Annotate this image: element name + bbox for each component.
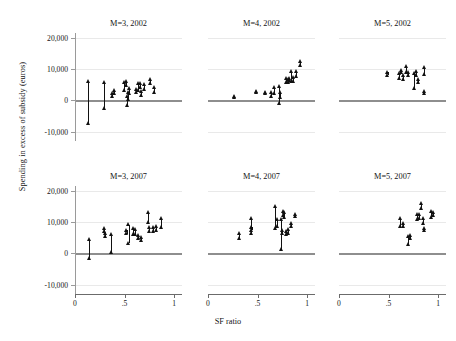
panel-m-5-2002: M=5, 2002: [339, 33, 446, 141]
data-marker-low: [279, 247, 283, 251]
data-marker-low: [401, 224, 405, 228]
y-axis-tick-label: -10,000: [45, 127, 68, 136]
data-marker-low: [298, 63, 302, 67]
data-marker-low: [146, 220, 150, 224]
data-marker-high: [102, 80, 106, 84]
data-marker-high: [87, 237, 91, 241]
data-marker-low: [421, 221, 425, 225]
plot-area: [208, 33, 315, 141]
data-marker-low: [385, 73, 389, 77]
x-axis-tick: [258, 295, 259, 298]
x-axis-tick: [389, 295, 390, 298]
x-axis-tick-label: .5: [386, 299, 392, 308]
data-marker-low: [419, 206, 423, 210]
data-marker-low: [422, 228, 426, 232]
data-marker-high: [109, 232, 113, 236]
plot-area: [339, 186, 446, 294]
x-axis-tick: [339, 295, 340, 298]
data-marker-high: [422, 65, 426, 69]
data-marker-low: [110, 94, 114, 98]
panel-m-5-2007: M=5, 20070.51: [339, 186, 446, 294]
data-marker-high: [159, 216, 163, 220]
x-axis-tick-label: 0: [206, 299, 210, 308]
data-marker-high: [142, 82, 146, 86]
data-range-line: [104, 82, 105, 108]
data-marker-low: [254, 90, 258, 94]
data-marker-high: [419, 201, 423, 205]
data-marker-low: [408, 236, 412, 240]
data-marker-low: [237, 236, 241, 240]
data-marker-high: [273, 204, 277, 208]
data-marker-high: [294, 69, 298, 73]
data-marker-low: [291, 79, 295, 83]
data-marker-high: [277, 84, 281, 88]
data-range-line: [88, 82, 89, 124]
x-axis-tick-label: 1: [436, 299, 440, 308]
data-marker-low: [126, 241, 130, 245]
data-marker-low: [412, 86, 416, 90]
panel-m-4-2002: M=4, 2002: [208, 33, 315, 141]
data-marker-high: [86, 79, 90, 83]
plot-area: [339, 33, 446, 141]
panel-m-3-2002: M=3, 200220,00010,0000-10,000: [75, 33, 182, 141]
plot-area: [75, 33, 182, 141]
data-marker-low: [263, 91, 267, 95]
x-axis-tick: [174, 295, 175, 298]
data-marker-low: [152, 90, 156, 94]
data-marker-low: [275, 224, 279, 228]
data-marker-low: [406, 242, 410, 246]
y-axis-tick-label: 10,000: [47, 65, 68, 74]
x-axis-tick-label: .5: [122, 299, 128, 308]
data-marker-low: [249, 228, 253, 232]
x-axis-tick-label: 0: [337, 299, 341, 308]
data-marker-low: [232, 95, 236, 99]
data-marker-low: [406, 73, 410, 77]
x-axis-tick-label: 1: [172, 299, 176, 308]
data-marker-low: [422, 72, 426, 76]
x-axis-line: [208, 294, 315, 295]
data-marker-low: [401, 77, 405, 81]
data-marker-low: [103, 234, 107, 238]
x-axis-tick: [125, 295, 126, 298]
data-marker-low: [286, 231, 290, 235]
data-marker-high: [237, 231, 241, 235]
panel-m-3-2007: M=3, 200720,00010,0000-10,0000.51: [75, 186, 182, 294]
data-marker-low: [278, 95, 282, 99]
x-axis-tick: [438, 295, 439, 298]
figure: Spending in excess of subsidy (euros) SF…: [0, 0, 456, 341]
x-axis-tick-label: 0: [73, 299, 77, 308]
panel-title: M=4, 2002: [208, 19, 315, 28]
data-marker-high: [127, 86, 131, 90]
data-marker-high: [249, 216, 253, 220]
panel-m-4-2007: M=4, 20070.51: [208, 186, 315, 294]
data-marker-high: [278, 90, 282, 94]
data-marker-low: [154, 228, 158, 232]
y-axis-tick-label: 20,000: [47, 186, 68, 195]
x-axis-tick: [307, 295, 308, 298]
x-axis-tick: [75, 295, 76, 298]
data-marker-low: [126, 97, 130, 101]
data-marker-low: [282, 215, 286, 219]
data-marker-low: [112, 91, 116, 95]
data-marker-low: [125, 103, 129, 107]
data-marker-high: [152, 85, 156, 89]
data-marker-high: [282, 210, 286, 214]
data-marker-low: [147, 229, 151, 233]
data-marker-high: [298, 59, 302, 63]
y-axis-tick-label: 20,000: [47, 33, 68, 42]
data-marker-low: [139, 93, 143, 97]
data-marker-low: [127, 91, 131, 95]
x-axis-line: [339, 294, 446, 295]
data-marker-high: [146, 210, 150, 214]
data-marker-low: [272, 91, 276, 95]
data-marker-high: [126, 222, 130, 226]
data-marker-high: [398, 216, 402, 220]
data-marker-low: [86, 121, 90, 125]
data-marker-high: [404, 64, 408, 68]
x-axis-tick-label: .5: [255, 299, 261, 308]
data-marker-low: [102, 106, 106, 110]
data-marker-low: [109, 250, 113, 254]
data-marker-low: [139, 238, 143, 242]
x-axis-tick: [208, 295, 209, 298]
data-marker-low: [87, 256, 91, 260]
